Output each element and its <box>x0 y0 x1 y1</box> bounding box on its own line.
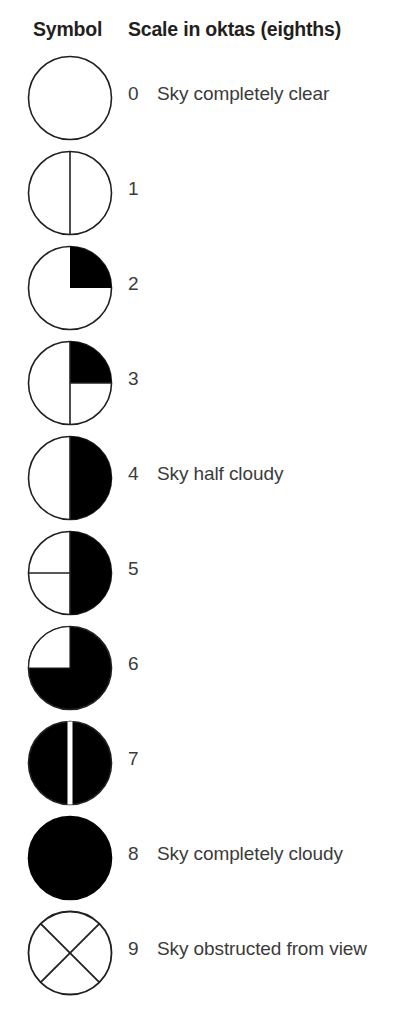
circle-with-cross-icon <box>27 910 113 996</box>
table-row: 7 <box>0 717 405 812</box>
table-row: 4 Sky half cloudy <box>0 432 405 527</box>
okta-number: 2 <box>128 273 150 295</box>
circle-three-quarters-filled-icon <box>27 625 113 711</box>
okta-number: 3 <box>128 368 150 390</box>
okta-symbol-1 <box>27 150 113 236</box>
circle-three-eighths-filled-icon <box>27 340 113 426</box>
table-row: 2 <box>0 242 405 337</box>
okta-symbol-5 <box>27 530 113 616</box>
okta-description: Sky obstructed from view <box>157 938 367 960</box>
empty-circle-icon <box>27 55 113 141</box>
table-row: 3 <box>0 337 405 432</box>
okta-symbol-2 <box>27 245 113 331</box>
okta-description: Sky half cloudy <box>157 463 283 485</box>
okta-symbol-3 <box>27 340 113 426</box>
circle-vertical-line-icon <box>27 150 113 236</box>
okta-description: Sky completely clear <box>157 83 329 105</box>
okta-symbol-6 <box>27 625 113 711</box>
circle-fully-filled-icon <box>27 815 113 901</box>
circle-five-eighths-filled-icon <box>27 530 113 616</box>
table-row: 6 <box>0 622 405 717</box>
circle-quarter-filled-icon <box>27 245 113 331</box>
okta-symbol-7 <box>27 720 113 806</box>
okta-scale-table: Symbol Scale in oktas (eighths) 0 Sky co… <box>0 0 405 1018</box>
table-header: Symbol Scale in oktas (eighths) <box>0 18 405 48</box>
okta-description: Sky completely cloudy <box>157 843 343 865</box>
table-row: 0 Sky completely clear <box>0 52 405 147</box>
column-header-symbol: Symbol <box>33 18 102 41</box>
table-row: 9 Sky obstructed from view <box>0 907 405 1002</box>
okta-number: 5 <box>128 558 150 580</box>
table-row: 8 Sky completely cloudy <box>0 812 405 907</box>
column-header-scale: Scale in oktas (eighths) <box>128 18 341 41</box>
okta-symbol-4 <box>27 435 113 521</box>
table-row: 1 <box>0 147 405 242</box>
okta-number: 9 <box>128 938 150 960</box>
okta-number: 4 <box>128 463 150 485</box>
okta-symbol-9 <box>27 910 113 996</box>
okta-symbol-0 <box>27 55 113 141</box>
okta-number: 7 <box>128 748 150 770</box>
circle-seven-eighths-filled-icon <box>27 720 113 806</box>
circle-half-filled-icon <box>27 435 113 521</box>
okta-number: 1 <box>128 178 150 200</box>
okta-symbol-8 <box>27 815 113 901</box>
okta-number: 8 <box>128 843 150 865</box>
okta-number: 0 <box>128 83 150 105</box>
okta-number: 6 <box>128 653 150 675</box>
table-row: 5 <box>0 527 405 622</box>
